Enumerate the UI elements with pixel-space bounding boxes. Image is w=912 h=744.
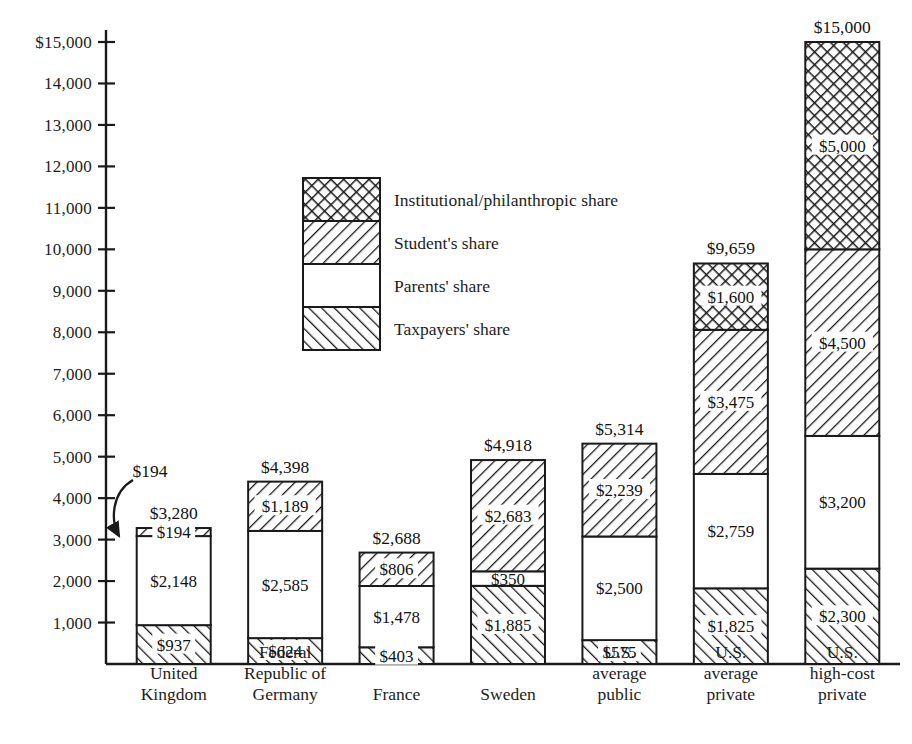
segment-value-label: $2,148 (150, 572, 197, 591)
segment-value-label: $5,000 (819, 137, 866, 156)
category-label: United (150, 663, 198, 683)
legend-swatch (303, 307, 380, 350)
segment-value-label: $350 (491, 570, 525, 589)
legend-label: Taxpayers' share (394, 319, 510, 339)
legend-swatch (303, 178, 380, 221)
category-label: Federal (259, 642, 312, 662)
y-tick-label: 7,000 (53, 365, 92, 384)
legend-label: Student's share (394, 233, 499, 253)
segment-value-label: $2,300 (819, 607, 866, 626)
category-label: U.S. (604, 642, 635, 662)
segment-value-label: $1,189 (262, 497, 309, 516)
y-tick-label: 5,000 (53, 448, 92, 467)
segment-value-label: $1,600 (707, 288, 754, 307)
y-tick-label: 13,000 (44, 116, 92, 135)
bar-total-label: $4,398 (261, 457, 309, 477)
y-tick-label: 8,000 (53, 323, 92, 342)
segment-value-label: $1,885 (485, 616, 532, 635)
segment-value-label: $2,585 (262, 576, 309, 595)
callout-arrow-path (114, 480, 133, 536)
y-tick-label: 10,000 (44, 240, 92, 259)
bar-total-label: $15,000 (814, 17, 871, 37)
bar-total-label: $5,314 (595, 419, 643, 439)
segment-value-label: $1,478 (373, 608, 420, 627)
segment-value-label: $3,475 (707, 393, 754, 412)
segment-value-label: $194 (157, 523, 192, 542)
legend: Institutional/philanthropic shareStudent… (303, 178, 618, 350)
segment-value-label: $2,500 (596, 579, 643, 598)
y-tick-label: 1,000 (53, 614, 92, 633)
segment-value-label: $937 (157, 636, 192, 655)
legend-swatch (303, 221, 380, 264)
category-label: average (592, 663, 647, 683)
category-label: Kingdom (141, 684, 208, 704)
category-label: public (598, 684, 642, 704)
segment-value-label: $2,683 (485, 507, 532, 526)
bar-total-label: $2,688 (373, 528, 421, 548)
stacked-bar-chart: $15,00014,00013,00012,00011,00010,0009,0… (0, 0, 912, 744)
category-label: private (707, 684, 756, 704)
segment-value-label: $1,825 (707, 617, 754, 636)
segment-value-label: $3,200 (819, 493, 866, 512)
bar-6 (694, 263, 768, 664)
legend-label: Parents' share (394, 276, 490, 296)
bar-total-label: $4,918 (484, 435, 532, 455)
category-label: U.S. (715, 642, 746, 662)
callout-label-194: $194 (133, 461, 168, 481)
category-label: Republic of (244, 663, 326, 683)
y-tick-label: 14,000 (44, 74, 92, 93)
y-tick-label: 2,000 (53, 572, 92, 591)
bar-5 (582, 444, 656, 664)
segment-value-label: $2,759 (707, 522, 754, 541)
y-tick-label: 9,000 (53, 282, 92, 301)
chart-canvas: $15,00014,00013,00012,00011,00010,0009,0… (0, 0, 912, 744)
bar-total-label: $9,659 (707, 238, 755, 258)
y-tick-label: $15,000 (35, 33, 92, 52)
category-label: high-cost (810, 663, 875, 683)
y-tick-label: 12,000 (44, 157, 92, 176)
category-label: U.S. (827, 642, 858, 662)
segment-value-label: $403 (380, 647, 414, 666)
category-label: average (704, 663, 759, 683)
y-tick-label: 6,000 (53, 406, 92, 425)
category-label: France (373, 684, 421, 704)
category-label: Sweden (480, 684, 536, 704)
y-tick-label: 11,000 (45, 199, 92, 218)
category-label: private (818, 684, 867, 704)
legend-swatch (303, 264, 380, 307)
segment-value-label: $2,239 (596, 481, 643, 500)
y-tick-label: 3,000 (53, 531, 92, 550)
y-axis-ticks: $15,00014,00013,00012,00011,00010,0009,0… (35, 33, 115, 633)
category-label: Germany (253, 684, 318, 704)
bar-total-label: $3,280 (150, 503, 198, 523)
legend-label: Institutional/philanthropic share (394, 190, 618, 210)
segment-value-label: $4,500 (819, 334, 866, 353)
segment-value-label: $806 (380, 560, 414, 579)
y-tick-label: 4,000 (53, 489, 92, 508)
